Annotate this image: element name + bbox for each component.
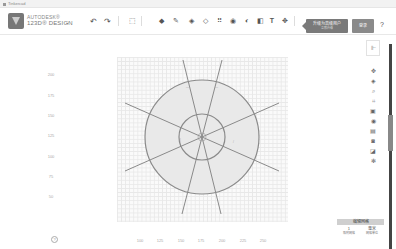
panel-toggle-icon: ⊩ [371,45,376,51]
view-box-icon[interactable]: ▣ [369,107,377,115]
y-axis-label: 75 [44,174,58,179]
text-icon[interactable]: T [268,17,276,25]
svg-text:—: — [215,85,218,89]
help-icon[interactable]: ? [380,21,384,28]
unit-label: 网格单位 [366,231,378,235]
zoom-icon[interactable]: ⌕ [369,87,377,95]
camera-icon[interactable]: ◙ [369,137,377,145]
panel-toggle-button[interactable]: ⊩ [366,40,380,56]
app-logo-icon[interactable] [8,13,24,29]
y-axis-label: 100 [44,154,58,159]
snap-setting[interactable]: 1 吸附网格 [343,226,355,235]
construct-icon[interactable]: ◈ [187,17,195,25]
app-header: AUTODESK® 123D® DESIGN ⌄ ↶ ↷ ⬚ ◆ ✎ ◈ ◇ ⠿… [0,8,396,35]
modify-icon[interactable]: ◇ [201,17,209,25]
snap-icon[interactable]: ✥ [281,17,289,25]
y-axis-label: 200 [44,72,58,77]
svg-text:—: — [186,85,189,89]
x-axis-label: 175 [194,238,208,243]
sketch-drawing[interactable]: — — | / [117,57,288,222]
help-circle-icon[interactable]: ? [51,236,58,243]
primitives-icon[interactable]: ◆ [157,17,165,25]
transform-icon[interactable]: ⬚ [128,17,136,25]
edit-grid-button[interactable]: 编辑网格 [337,219,384,225]
favicon-icon [3,3,6,6]
y-axis-label: 175 [44,93,58,98]
upgrade-button[interactable]: 升级为高级用户 立即升级 [306,19,348,33]
edit-grid-panel: 编辑网格 1 吸附网格 毫米 网格单位 [337,219,384,241]
x-axis-label: 225 [236,238,250,243]
snap-label: 吸附网格 [343,231,355,235]
material-view-icon[interactable]: ▤ [369,127,377,135]
browser-tab[interactable]: Tinkercad [3,1,25,7]
y-axis-label: 150 [44,113,58,118]
login-button[interactable]: 登录 [352,19,374,33]
y-axis-label: 125 [44,133,58,138]
divider [294,16,295,26]
divider [141,16,142,26]
view-toolbar: ✥ ◈ ⌕ ⌗ ▣ ◉ ▤ ◙ ◪ ✻ [367,67,379,165]
x-axis-label: 150 [174,238,188,243]
y-axis-label: 50 [44,194,58,199]
x-axis-label: 250 [256,238,270,243]
orbit-icon[interactable]: ◈ [369,77,377,85]
visibility-icon[interactable]: ◉ [369,117,377,125]
upgrade-sublabel: 立即升级 [306,26,348,31]
sketch-icon[interactable]: ✎ [172,17,180,25]
grid-settings: 1 吸附网格 毫米 网格单位 [337,226,384,235]
x-axis-label: 100 [133,238,147,243]
fit-icon[interactable]: ⌗ [369,97,377,105]
group-icon[interactable]: ◉ [229,17,237,25]
measure-icon[interactable]: ◧ [256,17,264,25]
redo-icon[interactable]: ↷ [104,17,111,26]
browser-tab-title: Tinkercad [8,1,25,7]
pattern-icon[interactable]: ⠿ [215,17,223,25]
x-axis-label: 125 [153,238,167,243]
divider [118,16,119,26]
combine-icon[interactable]: ◐ [243,17,251,25]
pan-icon[interactable]: ✥ [369,67,377,75]
undo-icon[interactable]: ↶ [90,17,97,26]
x-axis-label: 200 [215,238,229,243]
chevron-down-icon[interactable]: ⌄ [65,18,70,25]
unit-setting[interactable]: 毫米 网格单位 [366,226,378,235]
browser-tabbar: Tinkercad [0,0,396,8]
export-icon[interactable]: ◪ [369,147,377,155]
scrollbar-thumb[interactable] [388,115,393,151]
settings-icon[interactable]: ✻ [369,157,377,165]
